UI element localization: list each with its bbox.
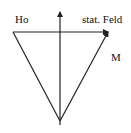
left-edge-line (13, 32, 60, 121)
h0-label: Ho (15, 14, 28, 25)
magnetization-vector (60, 32, 108, 121)
magnetization-label: M (111, 52, 121, 63)
static-field-label: stat. Feld (82, 14, 122, 25)
